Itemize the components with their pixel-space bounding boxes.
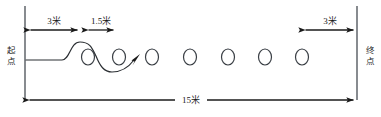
dimension-first-gap: 3米 (31, 15, 78, 30)
diagram-canvas: 起 点 终 点 3米 1.5米 3米 15米 (0, 0, 381, 117)
cone-5 (222, 49, 235, 65)
cone-1 (82, 49, 95, 65)
finish-label: 终 点 (366, 45, 375, 66)
dimension-last-gap: 3米 (306, 15, 354, 30)
dimension-last-gap-label: 3米 (323, 15, 337, 26)
cone-3 (146, 49, 159, 65)
cone-7 (296, 49, 309, 65)
cone-2 (113, 49, 126, 65)
finish-label-char-2: 点 (366, 56, 375, 66)
start-label: 起 点 (7, 45, 16, 66)
weaving-route-path (26, 42, 134, 72)
start-label-char-2: 点 (7, 56, 16, 66)
slalom-course-diagram: 起 点 终 点 3米 1.5米 3米 15米 (0, 0, 381, 117)
route-arrowhead-icon (132, 54, 141, 66)
cone-4 (184, 49, 197, 65)
dimension-cone-spacing: 1.5米 (89, 15, 114, 30)
dimension-total-length: 15米 (30, 94, 354, 105)
dimension-first-gap-label: 3米 (47, 15, 61, 26)
dimension-cone-spacing-label: 1.5米 (91, 15, 111, 26)
finish-label-char-1: 终 (366, 45, 375, 55)
dimension-total-length-label: 15米 (182, 94, 200, 105)
cone-6 (259, 49, 272, 65)
start-label-char-1: 起 (7, 45, 16, 55)
